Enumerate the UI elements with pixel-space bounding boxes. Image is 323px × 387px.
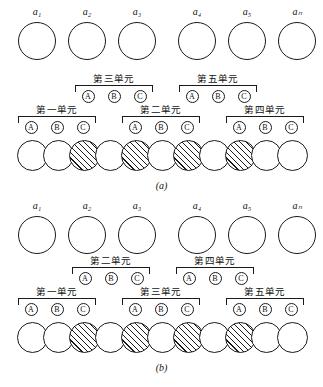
unit-group-lower: 第一单元 A B C bbox=[18, 285, 96, 319]
unit-letter-c: C bbox=[181, 121, 194, 134]
atom-circle bbox=[228, 216, 266, 254]
unit-letter-b: B bbox=[105, 272, 118, 285]
unit-group-lower: 第一单元 A B C bbox=[18, 103, 96, 137]
panel-b: a₁ a₂ a₃ a₄ a₅ aₙ 第二单元 A B C 第四单元 bbox=[0, 196, 323, 387]
unit-letter-a: A bbox=[129, 303, 142, 316]
unit-group-upper: 第二单元 A B C bbox=[72, 254, 150, 288]
panel-a-chain bbox=[0, 140, 323, 184]
chain-bead bbox=[277, 140, 308, 171]
atom-circle bbox=[228, 22, 266, 60]
atom-circle bbox=[68, 22, 106, 60]
unit-letters: A B C bbox=[18, 121, 96, 134]
unit-letter-b: B bbox=[51, 303, 64, 316]
atom-circle bbox=[178, 216, 216, 254]
unit-letter-c: C bbox=[181, 303, 194, 316]
atom-label: a₄ bbox=[178, 6, 216, 17]
unit-letter-b: B bbox=[212, 90, 225, 103]
unit-letter-b: B bbox=[155, 121, 168, 134]
atom-label: a₄ bbox=[178, 200, 216, 211]
unit-letters: A B C bbox=[226, 303, 304, 316]
unit-group-upper: 第五单元 A B C bbox=[179, 72, 257, 106]
unit-title: 第五单元 bbox=[226, 284, 304, 298]
unit-letter-a: A bbox=[25, 121, 38, 134]
unit-letter-b: B bbox=[259, 303, 272, 316]
atom-circle bbox=[278, 22, 316, 60]
atom-circle bbox=[68, 216, 106, 254]
atom-circle bbox=[118, 22, 156, 60]
unit-letter-b: B bbox=[155, 303, 168, 316]
unit-title: 第四单元 bbox=[226, 102, 304, 116]
atom-label: a₂ bbox=[68, 200, 106, 211]
unit-title: 第二单元 bbox=[122, 102, 200, 116]
unit-letters: A B C bbox=[226, 121, 304, 134]
panel-a-atom-row: a₁ a₂ a₃ a₄ a₅ aₙ bbox=[0, 22, 323, 66]
panel-a: a₁ a₂ a₃ a₄ a₅ aₙ 第三单元 A B C 第五单元 bbox=[0, 0, 323, 196]
unit-letter-b: B bbox=[259, 121, 272, 134]
unit-letter-c: C bbox=[285, 303, 298, 316]
atom-label: aₙ bbox=[278, 200, 316, 211]
atom-circle bbox=[278, 216, 316, 254]
unit-group-lower: 第二单元 A B C bbox=[122, 103, 200, 137]
atom-label: a₃ bbox=[118, 6, 156, 17]
unit-letter-b: B bbox=[51, 121, 64, 134]
atom-label: a₅ bbox=[228, 6, 266, 17]
panel-caption-b: (b) bbox=[0, 362, 323, 373]
unit-letters: A B C bbox=[122, 303, 200, 316]
atom-label: a₂ bbox=[68, 6, 106, 17]
polymer-unit-diagram: a₁ a₂ a₃ a₄ a₅ aₙ 第三单元 A B C 第五单元 bbox=[0, 0, 323, 387]
panel-b-atom-row: a₁ a₂ a₃ a₄ a₅ aₙ bbox=[0, 216, 323, 260]
unit-title: 第五单元 bbox=[179, 71, 257, 85]
unit-letter-b: B bbox=[209, 272, 222, 285]
chain-bead bbox=[277, 322, 308, 353]
unit-letter-a: A bbox=[233, 303, 246, 316]
unit-letter-a: A bbox=[25, 303, 38, 316]
unit-group-upper: 第三单元 A B C bbox=[75, 72, 153, 106]
unit-title: 第一单元 bbox=[18, 102, 96, 116]
unit-title: 第三单元 bbox=[122, 284, 200, 298]
atom-circle bbox=[118, 216, 156, 254]
atom-label: a₁ bbox=[18, 6, 56, 17]
atom-circle bbox=[178, 22, 216, 60]
unit-title: 第四单元 bbox=[176, 253, 254, 267]
atom-label: a₅ bbox=[228, 200, 266, 211]
unit-letter-b: B bbox=[108, 90, 121, 103]
atom-label: a₁ bbox=[18, 200, 56, 211]
unit-title: 第一单元 bbox=[18, 284, 96, 298]
unit-letter-a: A bbox=[233, 121, 246, 134]
unit-letter-c: C bbox=[285, 121, 298, 134]
unit-letter-a: A bbox=[129, 121, 142, 134]
atom-circle bbox=[18, 22, 56, 60]
unit-title: 第三单元 bbox=[75, 71, 153, 85]
atom-label: a₃ bbox=[118, 200, 156, 211]
unit-letters: A B C bbox=[18, 303, 96, 316]
unit-group-lower: 第五单元 A B C bbox=[226, 285, 304, 319]
atom-circle bbox=[18, 216, 56, 254]
unit-group-lower: 第三单元 A B C bbox=[122, 285, 200, 319]
unit-group-upper: 第四单元 A B C bbox=[176, 254, 254, 288]
unit-title: 第二单元 bbox=[72, 253, 150, 267]
atom-label: aₙ bbox=[278, 6, 316, 17]
panel-b-chain bbox=[0, 322, 323, 366]
unit-letters: A B C bbox=[122, 121, 200, 134]
unit-letter-c: C bbox=[77, 121, 90, 134]
unit-group-lower: 第四单元 A B C bbox=[226, 103, 304, 137]
panel-caption-a: (a) bbox=[0, 180, 323, 191]
unit-letter-c: C bbox=[77, 303, 90, 316]
